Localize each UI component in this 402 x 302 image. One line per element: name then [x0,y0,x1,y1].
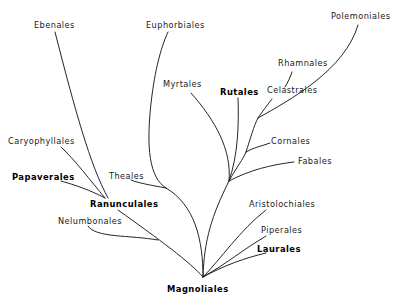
taxon-label-polemoniales: Polemoniales [331,12,390,20]
taxon-label-caryophyllales: Caryophyllales [8,137,75,145]
branch-myrtales [191,93,229,181]
branch-magnoliales-theales-node [166,188,203,277]
taxon-label-cornales: Cornales [271,137,310,145]
taxon-label-piperales: Piperales [261,226,302,234]
branch-polemoniales [258,25,358,118]
taxon-label-theales: Theales [109,172,144,180]
branch-magnoliales-ranunculales [118,210,203,277]
taxon-label-rhamnales: Rhamnales [278,59,328,67]
taxon-label-ranunculales: Ranunculales [90,200,158,208]
branch-nelumbonales [88,226,158,240]
taxon-label-nelumbonales: Nelumbonales [58,217,122,225]
branch-euphorbiales [149,32,168,188]
taxon-label-ebenales: Ebenales [34,21,75,29]
taxon-label-fabales: Fabales [298,157,332,165]
taxon-label-rutales: Rutales [220,88,259,96]
taxon-label-aristolochiales: Aristolochiales [249,200,315,208]
branch-celastrales-stem [246,118,258,152]
taxon-label-myrtales: Myrtales [163,80,202,88]
taxon-label-papaverales: Papaverales [12,173,75,181]
branch-cornales [246,143,270,152]
branch-celastrales [258,99,272,118]
phylogenetic-tree [0,0,402,302]
branch-piperales [203,236,266,277]
taxon-label-laurales: Laurales [257,245,301,253]
taxon-label-magnoliales: Magnoliales [167,285,229,293]
taxon-label-euphorbiales: Euphorbiales [146,21,205,29]
taxon-label-celastrales: Celastrales [267,86,317,94]
